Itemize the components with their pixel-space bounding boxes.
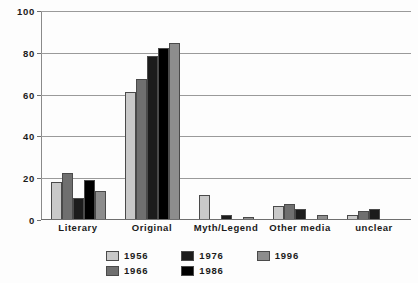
bar — [317, 215, 328, 219]
bar — [95, 191, 106, 219]
x-axis-category-labels: LiteraryOriginalMyth/LegendOther mediaun… — [41, 222, 411, 242]
y-axis-tick-label: 80 — [23, 47, 35, 58]
plot-area: 020406080100 — [41, 11, 411, 220]
bar-chart-figure: 020406080100 LiteraryOriginalMyth/Legend… — [0, 0, 418, 283]
bar — [243, 217, 254, 219]
x-axis-category-label: Original — [115, 222, 189, 242]
y-axis-tick-label: 0 — [29, 215, 35, 226]
y-axis-tick-mark — [37, 95, 41, 96]
legend-color-swatch — [106, 266, 119, 276]
y-axis-tick-label: 40 — [23, 131, 35, 142]
bar — [295, 209, 306, 219]
bar — [347, 215, 358, 219]
bar — [147, 56, 158, 219]
y-axis-tick-label: 20 — [23, 173, 35, 184]
legend-label: 1996 — [275, 250, 299, 261]
x-axis-category-label: Literary — [41, 222, 115, 242]
legend-label: 1976 — [199, 250, 223, 261]
legend-label: 1986 — [199, 265, 223, 276]
bar — [358, 211, 369, 219]
y-axis-tick-label: 100 — [17, 6, 35, 17]
bar — [273, 206, 284, 219]
chart-legend: 19561976199619661986 — [106, 249, 332, 277]
bar — [84, 180, 95, 219]
bar — [169, 43, 180, 219]
x-axis-category-label: Other media — [263, 222, 337, 242]
legend-label: 1966 — [124, 265, 148, 276]
bar — [62, 173, 73, 219]
bar-groups — [42, 11, 411, 219]
x-axis-line — [41, 219, 411, 220]
legend-item[interactable]: 1966 — [106, 264, 181, 277]
bar-group — [337, 11, 411, 219]
bar — [51, 182, 62, 219]
legend-item[interactable]: 1976 — [181, 249, 256, 262]
bar-group — [263, 11, 337, 219]
bar — [284, 204, 295, 219]
y-axis-tick-mark — [37, 220, 41, 221]
legend-item[interactable]: 1986 — [181, 264, 256, 277]
bar — [136, 79, 147, 219]
y-axis-tick-mark — [37, 11, 41, 12]
y-axis-tick-mark — [37, 53, 41, 54]
legend-item[interactable]: 1956 — [106, 249, 181, 262]
x-axis-category-label: Myth/Legend — [189, 222, 263, 242]
bar — [369, 209, 380, 219]
legend-color-swatch — [106, 251, 119, 261]
bar — [125, 92, 136, 219]
y-axis-tick-mark — [37, 178, 41, 179]
bar-group — [190, 11, 264, 219]
y-axis-tick-label: 60 — [23, 89, 35, 100]
bar-group — [42, 11, 116, 219]
bar — [221, 215, 232, 219]
x-axis-category-label: unclear — [337, 222, 411, 242]
y-axis-tick-mark — [37, 136, 41, 137]
bar — [158, 48, 169, 219]
legend-label: 1956 — [124, 250, 148, 261]
legend-item[interactable]: 1996 — [257, 249, 332, 262]
legend-color-swatch — [257, 251, 270, 261]
bar-group — [116, 11, 190, 219]
legend-color-swatch — [181, 266, 194, 276]
bar — [73, 198, 84, 219]
bar — [199, 195, 210, 219]
legend-color-swatch — [181, 251, 194, 261]
